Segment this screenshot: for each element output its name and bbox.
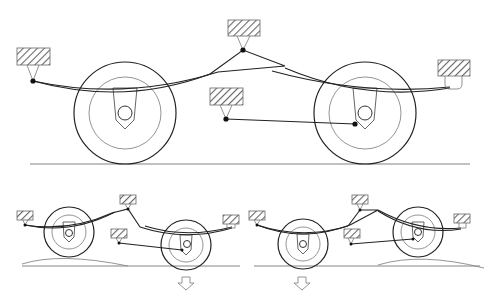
wheel-left (74, 62, 176, 164)
arrow-down-icon (294, 277, 310, 290)
hatched-frame-icon (17, 211, 33, 220)
pivot-joint (352, 121, 357, 126)
wheel-left (278, 219, 328, 269)
hatched-frame-icon (344, 229, 360, 238)
frame-mount-rod (210, 88, 243, 119)
hatched-frame-icon (17, 48, 50, 65)
hatched-frame-icon (454, 214, 470, 223)
hatched-frame-icon (210, 88, 243, 105)
pivot-joint (223, 116, 228, 121)
panel-level (17, 20, 470, 164)
wheel-right (393, 207, 443, 257)
hatched-frame-icon (111, 229, 127, 238)
frame-mount-center (228, 20, 260, 50)
wheel-left (44, 207, 94, 257)
axle-icon (118, 106, 132, 120)
hatched-frame-icon (228, 20, 260, 36)
equalizer-beam (112, 209, 140, 227)
radius-rod (119, 243, 182, 250)
hatched-frame-icon (438, 60, 470, 76)
equalizer-beam (348, 210, 378, 226)
hatched-frame-icon (120, 195, 136, 204)
axle-icon (358, 106, 372, 120)
equalizer-beam (210, 50, 285, 74)
suspension-diagram (0, 0, 498, 301)
frame-mount-right (438, 60, 470, 89)
pivot-joint (240, 47, 245, 52)
hatched-frame-icon (223, 215, 239, 224)
panel-left-bump (17, 195, 240, 290)
radius-rod (226, 119, 355, 124)
pivot-joint (30, 78, 35, 83)
wheel-right (314, 62, 416, 164)
hatched-frame-icon (352, 195, 368, 204)
ground-bump (378, 259, 484, 268)
ground-bump (22, 258, 128, 266)
hatched-frame-icon (249, 211, 265, 220)
panel-right-bump (249, 195, 484, 290)
wheel-right (161, 220, 211, 270)
arrow-down-icon (178, 277, 194, 290)
frame-mount-left (17, 48, 50, 81)
